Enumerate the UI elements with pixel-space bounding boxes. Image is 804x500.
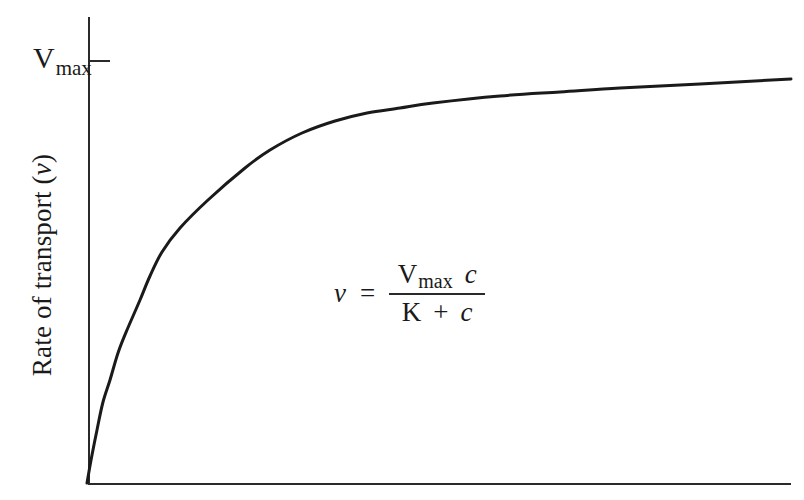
y-axis-label: Rate of transport (ν) xyxy=(27,154,58,376)
equation-numerator: Vmaxc xyxy=(396,260,479,293)
chart-plot-area xyxy=(0,0,804,500)
vmax-label-main: V xyxy=(33,41,55,74)
numerator-variable: c xyxy=(465,259,477,289)
vmax-tick-label: Vmax xyxy=(33,41,92,75)
michaelis-menten-equation: ν = Vmaxc K+c xyxy=(334,258,485,328)
y-axis-label-symbol: ν xyxy=(27,163,57,175)
denominator-operator: + xyxy=(433,297,448,327)
numerator-vmax-sub: max xyxy=(418,270,452,292)
equation-equals: = xyxy=(360,278,375,309)
equation-fraction: Vmaxc K+c xyxy=(389,260,485,327)
denominator-constant: K xyxy=(402,297,422,327)
equation-denominator: K+c xyxy=(389,293,485,327)
numerator-vmax-main: V xyxy=(398,259,418,289)
y-axis-label-text: Rate of transport ( xyxy=(27,175,57,376)
denominator-variable: c xyxy=(461,297,473,327)
y-axis-label-close: ) xyxy=(27,154,57,163)
equation-lhs: ν xyxy=(334,278,346,309)
vmax-label-sub: max xyxy=(56,56,92,80)
